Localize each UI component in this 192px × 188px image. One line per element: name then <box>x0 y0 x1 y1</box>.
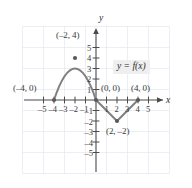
point-marker-0-0 <box>94 98 98 102</box>
point-marker-2-neg2 <box>115 119 119 123</box>
annotation-point-0-0: (0, 0) <box>101 84 120 93</box>
y-axis-arrowhead <box>93 28 99 34</box>
y-tick-label-neg3: –3 <box>85 128 94 137</box>
y-tick-label-neg1: –1 <box>85 107 94 116</box>
x-axis-arrowhead <box>157 97 163 103</box>
x-tick-label-neg5: –5 <box>38 105 47 114</box>
annotation-point-neg4-0: (–4, 0) <box>13 84 36 93</box>
x-tick-label-5: 5 <box>146 105 150 114</box>
x-tick-label-neg4: –4 <box>49 105 58 114</box>
point-marker-4-0 <box>136 98 140 102</box>
function-label: y = f(x) <box>113 60 150 74</box>
axis-lines <box>24 30 163 172</box>
y-tick-label-4: 4 <box>87 54 91 63</box>
graph-figure: y x –5 –4 –3 –2 –1 1 2 3 4 5 5 4 3 2 1 –… <box>0 0 192 188</box>
y-tick-label-1: 1 <box>87 86 91 95</box>
annotation-point-4-0: (4, 0) <box>131 84 150 93</box>
point-marker-neg4-0 <box>52 98 56 102</box>
x-tick-label-1: 1 <box>105 105 109 114</box>
x-tick-label-2: 2 <box>115 105 119 114</box>
annotation-point-neg2-4: (–2, 4) <box>56 31 79 40</box>
x-axis-label: x <box>166 96 170 106</box>
annotation-point-2-neg2: (2, –2) <box>106 127 129 136</box>
y-tick-label-neg2: –2 <box>85 118 94 127</box>
coordinate-plane <box>0 0 192 188</box>
x-tick-label-3: 3 <box>125 105 129 114</box>
y-tick-label-neg4: –4 <box>85 139 94 148</box>
x-tick-label-neg2: –2 <box>70 105 79 114</box>
x-tick-label-4: 4 <box>136 105 140 114</box>
y-tick-label-3: 3 <box>87 65 91 74</box>
y-tick-label-neg5: –5 <box>85 149 94 158</box>
y-tick-label-5: 5 <box>87 44 91 53</box>
y-axis-label: y <box>99 14 103 24</box>
point-marker-neg2-4 <box>73 56 77 60</box>
y-tick-label-2: 2 <box>87 75 91 84</box>
x-tick-label-neg3: –3 <box>59 105 68 114</box>
